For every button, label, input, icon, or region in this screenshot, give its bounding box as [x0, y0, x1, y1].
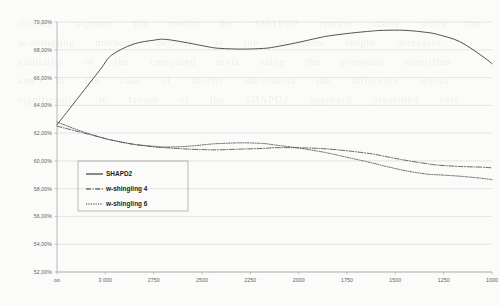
y-tick-label: 52,00%: [34, 269, 52, 275]
x-tick-label: 1000: [486, 277, 498, 283]
chart-canvas: 70,00%68,00%66,00%64,00%62,00%60,00%58,0…: [0, 0, 500, 306]
y-tick-label: 56,00%: [34, 213, 52, 219]
x-axis-tick-labels: oo3 00027502500225020001750150012501000: [54, 277, 498, 283]
x-tick-label: 1750: [341, 277, 353, 283]
gridlines-group: [57, 22, 492, 272]
x-tick-label: 2250: [244, 277, 256, 283]
legend-label: w-shingling 4: [105, 185, 148, 193]
y-tick-label: 60,00%: [34, 158, 52, 164]
legend-label: w-shingling 6: [105, 200, 148, 208]
y-tick-label: 54,00%: [34, 241, 52, 247]
y-tickmarks-group: [55, 22, 58, 272]
y-tick-label: 66,00%: [34, 75, 52, 81]
x-tick-label: 1250: [438, 277, 450, 283]
x-tick-label: 2000: [293, 277, 305, 283]
y-tick-label: 62,00%: [34, 130, 52, 136]
y-tick-label: 68,00%: [34, 47, 52, 53]
series-line: [57, 126, 492, 168]
x-tickmarks-group: [57, 272, 492, 275]
x-tick-label: 2500: [196, 277, 208, 283]
y-axis-tick-labels: 70,00%68,00%66,00%64,00%62,00%60,00%58,0…: [34, 19, 52, 275]
chart-legend: SHAPD2w-shingling 4w-shingling 6: [78, 161, 188, 211]
x-tick-label: 3 000: [99, 277, 112, 283]
data-series-group: [57, 30, 492, 179]
y-tick-label: 70,00%: [34, 19, 52, 25]
line-chart: 70,00%68,00%66,00%64,00%62,00%60,00%58,0…: [0, 0, 500, 306]
x-tick-label: oo: [54, 277, 60, 283]
y-tick-label: 58,00%: [34, 186, 52, 192]
y-tick-label: 64,00%: [34, 102, 52, 108]
x-tick-label: 2750: [148, 277, 160, 283]
legend-label: SHAPD2: [106, 170, 133, 177]
x-tick-label: 1500: [389, 277, 401, 283]
